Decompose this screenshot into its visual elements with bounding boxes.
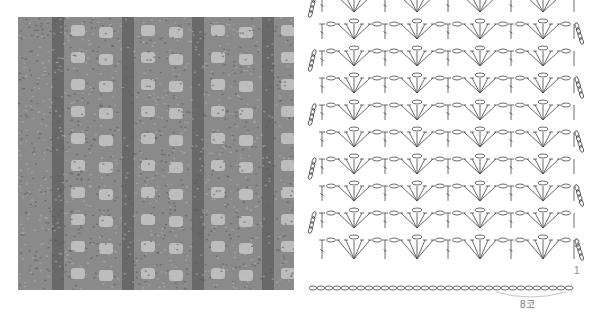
swatch-texture — [18, 17, 294, 290]
crochet-chart-symbols — [300, 0, 601, 324]
row-label-1: 1 — [574, 265, 580, 276]
row-label-2: 2 — [574, 238, 580, 249]
crochet-chart: 2 1 8코 — [300, 0, 601, 324]
repeat-count-label: 8코 — [520, 296, 535, 311]
swatch-photo — [18, 17, 294, 290]
